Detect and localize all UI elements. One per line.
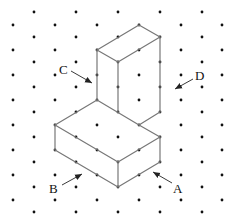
grid-dot	[33, 36, 36, 39]
grid-dot	[54, 24, 57, 27]
grid-dot	[201, 186, 204, 189]
grid-dot	[221, 49, 224, 52]
grid-dot	[180, 99, 183, 102]
grid-dot	[96, 124, 99, 127]
shape-edge	[55, 125, 118, 162]
shape-edge	[118, 137, 160, 162]
grid-dot	[201, 86, 204, 89]
grid-dot	[221, 149, 224, 152]
grid-dot	[221, 24, 224, 27]
grid-dot	[75, 86, 78, 89]
shape-edge	[139, 25, 160, 37]
grid-dot	[54, 199, 57, 202]
grid-dot	[180, 199, 183, 202]
shape-edge	[55, 150, 118, 187]
grid-dot	[201, 111, 204, 114]
grid-dot	[201, 136, 204, 139]
grid-dot	[117, 211, 120, 214]
grid-dot	[201, 36, 204, 39]
grid-dot	[221, 199, 224, 202]
grid-dot	[96, 24, 99, 27]
grid-dot	[221, 99, 224, 102]
grid-dot	[33, 11, 36, 14]
grid-dot	[54, 99, 57, 102]
grid-dot	[12, 74, 15, 77]
grid-dot	[138, 99, 141, 102]
grid-dot	[221, 74, 224, 77]
arrow-icon-d	[175, 79, 193, 89]
grid-dot	[138, 199, 141, 202]
view-label-c: C	[59, 62, 68, 77]
grid-dot	[221, 124, 224, 127]
grid-dot	[201, 211, 204, 214]
grid-dot	[201, 61, 204, 64]
grid-dot	[33, 111, 36, 114]
grid-dot	[12, 174, 15, 177]
grid-dot	[180, 74, 183, 77]
grid-dot	[75, 11, 78, 14]
shape-edge	[97, 50, 118, 62]
arrow-icon-a	[153, 172, 172, 183]
grid-dot	[180, 174, 183, 177]
view-label-d: D	[195, 68, 204, 83]
solid-shape-edges	[55, 25, 160, 187]
grid-dot	[54, 49, 57, 52]
shape-edge	[139, 125, 160, 137]
grid-dot	[180, 49, 183, 52]
grid-dot	[117, 11, 120, 14]
isometric-diagram: CDBA	[0, 0, 235, 220]
grid-dot	[159, 11, 162, 14]
arrow-icon-c	[71, 71, 92, 83]
grid-dot	[33, 61, 36, 64]
grid-dot	[33, 161, 36, 164]
grid-dot	[75, 61, 78, 64]
grid-dot	[180, 124, 183, 127]
grid-dot	[12, 199, 15, 202]
grid-dot	[221, 174, 224, 177]
grid-dot	[54, 174, 57, 177]
grid-dot	[12, 149, 15, 152]
grid-dot	[159, 186, 162, 189]
grid-dot	[12, 99, 15, 102]
grid-dot	[159, 211, 162, 214]
view-label-b: B	[49, 181, 58, 196]
grid-dot	[12, 24, 15, 27]
grid-dot	[12, 124, 15, 127]
shape-edge	[139, 112, 160, 125]
grid-dot	[33, 136, 36, 139]
grid-dot	[75, 36, 78, 39]
grid-dot	[33, 211, 36, 214]
grid-dot	[12, 49, 15, 52]
shape-edge	[97, 25, 139, 50]
grid-dot	[54, 74, 57, 77]
grid-dot	[33, 186, 36, 189]
shape-edge	[55, 100, 97, 125]
grid-dot	[138, 74, 141, 77]
grid-dot	[117, 136, 120, 139]
shape-edge	[118, 37, 160, 62]
grid-dot	[201, 11, 204, 14]
grid-dot	[75, 211, 78, 214]
arrow-icon-b	[62, 174, 82, 185]
grid-dot	[75, 186, 78, 189]
grid-dot	[201, 161, 204, 164]
grid-dot	[96, 199, 99, 202]
grid-dot	[180, 24, 183, 27]
grid-dot	[33, 86, 36, 89]
view-label-a: A	[173, 181, 183, 196]
grid-dot	[180, 149, 183, 152]
shape-edge	[118, 162, 160, 187]
